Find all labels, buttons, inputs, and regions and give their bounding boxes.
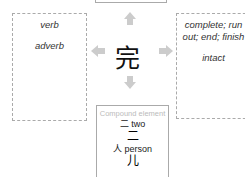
arrow-up-icon	[127, 19, 133, 25]
arrow-right-stem	[159, 48, 166, 54]
arrow-left-stem	[98, 48, 105, 54]
meaning-2: intact	[177, 52, 245, 64]
arrow-left-icon	[91, 45, 98, 57]
pos-adverb: adverb	[13, 40, 86, 52]
pos-verb: verb	[13, 19, 86, 31]
part-of-speech-box: verb adverb	[12, 13, 87, 121]
arrow-up-head-icon	[124, 12, 136, 19]
compound-element-box: Compound element 二 two 二 人 person 儿	[96, 105, 169, 177]
compound-title: Compound element	[97, 109, 168, 118]
element-1-form: 二	[97, 130, 168, 143]
meaning-1: complete; run out; end; finish	[177, 19, 245, 43]
meaning-box: complete; run out; end; finish intact	[176, 13, 245, 119]
element-2-form: 儿	[97, 155, 168, 168]
top-box	[95, 0, 167, 3]
center-kanji: 完	[115, 38, 140, 74]
arrow-down-head-icon	[124, 82, 136, 89]
arrow-right-icon	[166, 45, 173, 57]
